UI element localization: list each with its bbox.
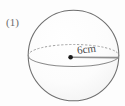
item-number-label: (1) (6, 16, 19, 28)
center-point-dot (68, 55, 73, 60)
sphere-outline (28, 10, 119, 101)
sphere-figure: (1) 6cm (0, 0, 125, 106)
radius-dimension-label: 6cm (76, 42, 96, 56)
